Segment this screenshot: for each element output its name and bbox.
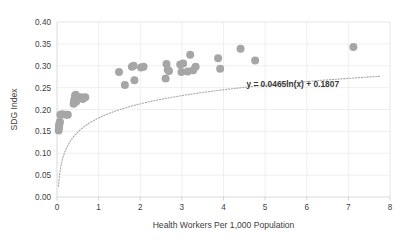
x-axis-tick-label: 7 — [346, 203, 351, 212]
y-axis-tick-label: 0.05 — [35, 171, 51, 180]
scatter-chart: 0.000.050.100.150.200.250.300.350.40 012… — [0, 0, 405, 246]
y-axis-tick-labels: 0.000.050.100.150.200.250.300.350.40 — [35, 18, 51, 202]
x-axis-tick-label: 5 — [263, 203, 268, 212]
chart-svg: 0.000.050.100.150.200.250.300.350.40 012… — [0, 0, 405, 246]
x-axis-tick-label: 1 — [96, 203, 101, 212]
x-axis-title: Health Workers Per 1,000 Population — [153, 220, 295, 230]
x-axis-tick-label: 3 — [180, 203, 185, 212]
y-axis-tick-label: 0.15 — [35, 127, 51, 136]
x-axis-tick-label: 8 — [388, 203, 393, 212]
x-axis-tick-label: 4 — [221, 203, 226, 212]
y-axis-tick-label: 0.25 — [35, 84, 51, 93]
y-axis-tick-label: 0.00 — [35, 193, 51, 202]
y-axis-tick-label: 0.30 — [35, 62, 51, 71]
x-axis-tick-label: 0 — [55, 203, 60, 212]
x-axis-tick-label: 2 — [138, 203, 143, 212]
x-axis-tick-marks — [57, 197, 390, 201]
x-axis-tick-label: 6 — [304, 203, 309, 212]
trendline-equation-label: y = 0.0465ln(x) + 0.1807 — [246, 79, 339, 89]
y-axis-tick-label: 0.20 — [35, 106, 51, 115]
y-axis-tick-label: 0.40 — [35, 18, 51, 27]
y-axis-title: SDG Index — [9, 88, 19, 131]
y-axis-tick-label: 0.35 — [35, 40, 51, 49]
y-axis-tick-label: 0.10 — [35, 149, 51, 158]
x-axis-tick-labels: 012345678 — [55, 203, 393, 212]
